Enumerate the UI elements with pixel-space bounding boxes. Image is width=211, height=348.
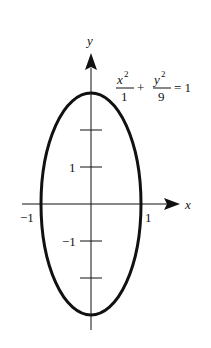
y-tick-label-1: 1 — [69, 160, 76, 175]
x-axis-label: x — [184, 197, 191, 212]
eq-term2-denominator: 9 — [158, 89, 165, 104]
eq-term2-exponent: 2 — [161, 69, 166, 79]
eq-rhs: = 1 — [174, 80, 191, 95]
x-tick-label-1: 1 — [145, 210, 152, 225]
eq-term1-exponent: 2 — [124, 69, 129, 79]
ellipse-diagram: x y 1−1 −1 1 x 2 1 + y 2 9 = 1 — [0, 0, 211, 348]
eq-plus: + — [137, 80, 144, 95]
eq-term1-numerator: x — [116, 72, 123, 87]
x-tick-label-neg1: −1 — [20, 210, 34, 225]
eq-term2-numerator: y — [152, 72, 160, 87]
eq-term1-denominator: 1 — [121, 89, 128, 104]
equation: x 2 1 + y 2 9 = 1 — [116, 69, 191, 104]
y-axis-arrow-icon — [85, 53, 97, 70]
y-tick-label-2: −1 — [62, 234, 76, 249]
y-axis-label: y — [85, 33, 93, 48]
